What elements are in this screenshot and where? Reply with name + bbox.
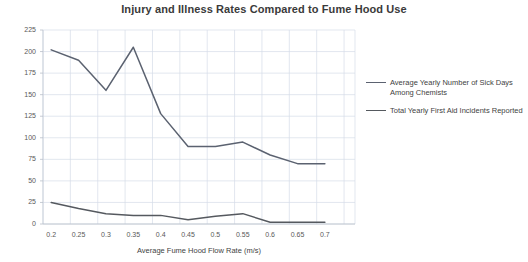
plot-area: 02550751001251501752002250.20.250.30.350…	[0, 0, 528, 262]
y-tick-label: 100	[16, 134, 36, 141]
legend-label-series1: Average Yearly Number of Sick Days Among…	[390, 78, 513, 97]
y-tick-label: 225	[16, 26, 36, 33]
y-tick-label: 50	[16, 177, 36, 184]
x-tick-label: 0.55	[231, 231, 255, 238]
x-tick-label: 0.4	[149, 231, 173, 238]
legend-line-icon-series1	[366, 82, 386, 83]
x-axis-title: Average Fume Hood Flow Rate (m/s)	[43, 246, 355, 255]
x-tick-label: 0.5	[203, 231, 227, 238]
y-tick-label: 125	[16, 112, 36, 119]
x-tick-label: 0.45	[176, 231, 200, 238]
legend-line-icon-series2	[366, 110, 386, 111]
plot-svg	[0, 0, 528, 262]
x-tick-label: 0.35	[121, 231, 145, 238]
x-tick-label: 0.7	[313, 231, 337, 238]
x-tick-label: 0.2	[39, 231, 63, 238]
x-tick-label: 0.6	[258, 231, 282, 238]
y-tick-label: 0	[16, 220, 36, 227]
legend-label-series2: Total Yearly First Aid Incidents Reporte…	[390, 106, 523, 115]
y-tick-label: 25	[16, 198, 36, 205]
y-tick-label: 200	[16, 48, 36, 55]
y-tick-label: 150	[16, 91, 36, 98]
legend-item-sick-days: Average Yearly Number of Sick Days Among…	[366, 78, 524, 98]
x-tick-label: 0.25	[67, 231, 91, 238]
legend-item-first-aid: Total Yearly First Aid Incidents Reporte…	[366, 106, 524, 116]
y-tick-label: 175	[16, 69, 36, 76]
x-tick-label: 0.3	[94, 231, 118, 238]
y-tick-label: 75	[16, 155, 36, 162]
x-tick-label: 0.65	[286, 231, 310, 238]
chart-legend: Average Yearly Number of Sick Days Among…	[366, 78, 524, 124]
chart-container: Injury and Illness Rates Compared to Fum…	[0, 0, 528, 262]
